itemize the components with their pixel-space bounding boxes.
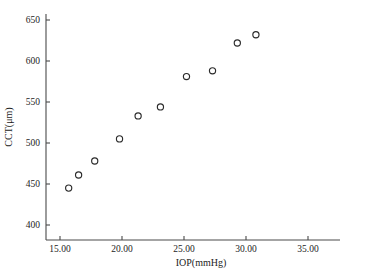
scatter-chart: 40045050055060065015.0020.0025.0030.0035…: [0, 0, 375, 273]
x-tick-label: 15.00: [49, 244, 71, 254]
plot-area: 40045050055060065015.0020.0025.0030.0035…: [0, 0, 375, 273]
y-tick-label: 650: [26, 15, 41, 25]
data-point-marker: [183, 73, 189, 79]
data-point-marker: [76, 172, 82, 178]
y-tick-label: 500: [26, 138, 41, 148]
x-tick-label: 20.00: [111, 244, 133, 254]
y-tick-label: 450: [26, 179, 41, 189]
data-point-marker: [92, 158, 98, 164]
x-tick-label: 30.00: [235, 244, 257, 254]
y-tick-label: 550: [26, 97, 41, 107]
data-point-marker: [66, 185, 72, 191]
data-point-marker: [116, 136, 122, 142]
x-tick-label: 25.00: [173, 244, 195, 254]
data-point-marker: [234, 40, 240, 46]
x-tick-label: 35.00: [297, 244, 319, 254]
x-axis-title: IOP(mmHg): [176, 257, 227, 269]
y-tick-label: 600: [26, 56, 41, 66]
y-axis-title: CCT(μm): [3, 107, 15, 146]
data-point-marker: [253, 32, 259, 38]
data-point-marker: [157, 104, 163, 110]
y-tick-label: 400: [26, 220, 41, 230]
data-point-marker: [209, 68, 215, 74]
data-point-marker: [135, 113, 141, 119]
